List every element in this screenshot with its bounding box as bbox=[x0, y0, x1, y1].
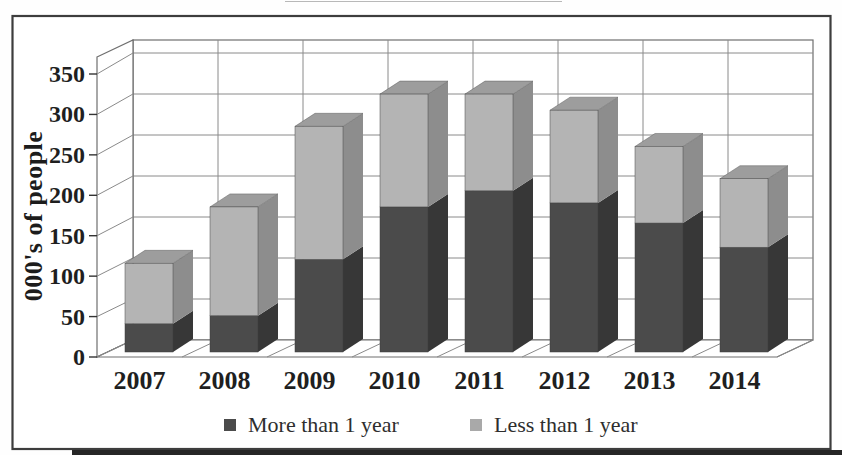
x-tick-label-2011: 2011 bbox=[454, 366, 505, 395]
bar-2012-less-side bbox=[598, 97, 618, 203]
legend-item-less-than-1-year: Less than 1 year bbox=[470, 412, 638, 438]
bar-2008-less-side bbox=[258, 194, 278, 316]
legend-swatch-dark-icon bbox=[224, 419, 236, 431]
y-axis-title: 000's of people bbox=[19, 131, 49, 302]
bar-2013-more-front bbox=[635, 223, 683, 352]
bar-2007-more-front bbox=[125, 324, 173, 352]
y-tick-label-250: 250 bbox=[49, 142, 85, 168]
bar-2011-more-side bbox=[513, 178, 533, 352]
bar-2010-less-front bbox=[380, 94, 428, 207]
x-tick-label-2014: 2014 bbox=[709, 366, 761, 395]
bar-2014-more-front bbox=[720, 247, 768, 352]
bar-2010-more-side bbox=[428, 194, 448, 352]
bar-2011-less-side bbox=[513, 81, 533, 191]
legend-swatch-light-icon bbox=[470, 419, 482, 431]
x-tick-label-2009: 2009 bbox=[284, 366, 336, 395]
x-tick-label-2008: 2008 bbox=[199, 366, 251, 395]
scanned-book-page: 0501001502002503003502007200820092010201… bbox=[0, 0, 842, 455]
bar-2010-less-side bbox=[428, 81, 448, 207]
bar-2008-more-front bbox=[210, 316, 258, 352]
bar-2008-less-front bbox=[210, 207, 258, 316]
bar-2014-more-side bbox=[768, 234, 788, 352]
bar-2013-less-side bbox=[683, 133, 703, 223]
bar-2012-more-front bbox=[550, 203, 598, 352]
y-tick-label-150: 150 bbox=[49, 223, 85, 249]
bar-2007-less-front bbox=[125, 263, 173, 323]
bar-2014-less-front bbox=[720, 179, 768, 248]
y-tick-label-100: 100 bbox=[49, 263, 85, 289]
y-tick-label-0: 0 bbox=[73, 344, 85, 370]
bar-2013-less-front bbox=[635, 146, 683, 223]
bar-2013-more-side bbox=[683, 210, 703, 352]
x-tick-label-2013: 2013 bbox=[624, 366, 676, 395]
stacked-bar-chart-3d: 0501001502002503003502007200820092010201… bbox=[0, 0, 842, 455]
x-tick-label-2010: 2010 bbox=[369, 366, 421, 395]
bar-2009-less-front bbox=[295, 126, 343, 259]
x-tick-label-2007: 2007 bbox=[114, 366, 166, 395]
bar-2009-more-front bbox=[295, 259, 343, 352]
bar-2010-more-front bbox=[380, 207, 428, 352]
x-tick-label-2012: 2012 bbox=[539, 366, 591, 395]
bar-2014-less-side bbox=[768, 166, 788, 248]
legend-label-more-than-1-year: More than 1 year bbox=[248, 412, 399, 438]
cropped-next-figure-edge bbox=[72, 450, 842, 455]
bar-2009-more-side bbox=[343, 246, 363, 352]
bar-2011-less-front bbox=[465, 94, 513, 191]
y-tick-label-50: 50 bbox=[61, 304, 85, 330]
bar-2009-less-side bbox=[343, 113, 363, 259]
bar-2011-more-front bbox=[465, 191, 513, 352]
y-tick-label-350: 350 bbox=[49, 61, 85, 87]
y-tick-label-300: 300 bbox=[49, 101, 85, 127]
bar-2012-more-side bbox=[598, 190, 618, 352]
legend-label-less-than-1-year: Less than 1 year bbox=[494, 412, 638, 438]
y-tick-label-200: 200 bbox=[49, 182, 85, 208]
bar-2012-less-front bbox=[550, 110, 598, 203]
legend-item-more-than-1-year: More than 1 year bbox=[224, 412, 399, 438]
